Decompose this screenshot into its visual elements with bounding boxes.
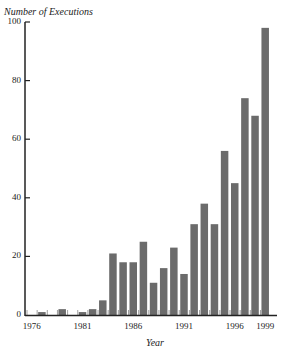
x-tick-label: 1981 xyxy=(74,321,92,331)
bar-1989 xyxy=(160,268,168,315)
bar-1985 xyxy=(119,262,127,315)
bar-1979 xyxy=(58,309,65,315)
x-tick-label: 1991 xyxy=(175,321,193,331)
bar-1988 xyxy=(150,283,158,315)
y-tick-label: 20 xyxy=(1,250,21,260)
x-tick-label: 1999 xyxy=(256,321,274,331)
bar-1991 xyxy=(180,274,188,315)
bar-1982 xyxy=(89,309,97,315)
y-tick-label: 40 xyxy=(1,192,21,202)
bar-1999 xyxy=(261,28,269,315)
x-axis-title: Year xyxy=(146,337,164,348)
bar-1986 xyxy=(130,262,138,315)
x-tick-label: 1986 xyxy=(124,321,142,331)
bar-1984 xyxy=(109,253,117,315)
bar-1996 xyxy=(231,183,239,315)
bar-1993 xyxy=(201,204,209,315)
bar-1994 xyxy=(211,224,219,315)
bar-1998 xyxy=(251,116,258,315)
bar-1995 xyxy=(221,151,229,315)
bar-1977 xyxy=(38,312,46,315)
bar-1983 xyxy=(99,300,107,315)
bar-1981 xyxy=(79,312,87,315)
bar-1990 xyxy=(170,248,178,315)
bar-1987 xyxy=(140,242,148,315)
y-tick-label: 100 xyxy=(1,16,21,26)
bar-1997 xyxy=(241,98,249,315)
x-tick-label: 1996 xyxy=(226,321,244,331)
bar-1992 xyxy=(190,224,198,315)
x-tick-label: 1976 xyxy=(23,321,41,331)
bar-chart xyxy=(0,0,284,360)
y-tick-label: 80 xyxy=(1,75,21,85)
y-tick-label: 60 xyxy=(1,133,21,143)
y-tick-label: 0 xyxy=(1,309,21,319)
